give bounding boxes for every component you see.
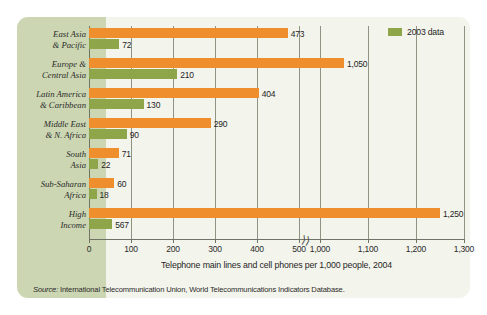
category-label-line: & N. Africa [0, 130, 86, 141]
category-label-line: Europe & [0, 59, 86, 70]
category-label-line: Sub-Saharan [0, 179, 86, 190]
category-label-line: Central Asia [0, 70, 86, 81]
x-axis-tick-label: 200 [166, 244, 180, 254]
bar-2004 [89, 208, 440, 218]
bar-value-label: 210 [180, 70, 194, 80]
bar-2004 [89, 118, 211, 128]
x-axis-tick-label: 300 [208, 244, 222, 254]
bar-value-label: 72 [122, 40, 131, 50]
bar-value-label: 404 [262, 89, 276, 99]
x-axis-title: Telephone main lines and cell phones per… [89, 260, 464, 270]
bar-2003 [89, 159, 98, 169]
bar-2003 [89, 219, 112, 229]
bar-2004 [89, 58, 344, 68]
chart-figure: 01002003004005001,0001,1001,2001,300 ⟩⟩ … [0, 0, 487, 315]
x-axis-tick [131, 239, 132, 243]
category-label: Latin America& Caribbean [0, 89, 86, 110]
x-axis-tick [173, 239, 174, 243]
bar-value-label: 567 [115, 220, 129, 230]
x-axis-tick [215, 239, 216, 243]
bar-2003 [89, 189, 97, 199]
bar-value-label: 18 [100, 190, 109, 200]
x-axis-tick [416, 239, 417, 243]
category-label-line: High [0, 209, 86, 220]
source-text: International Telecommunication Union, W… [58, 285, 345, 294]
x-axis-tick-label: 0 [87, 244, 92, 254]
category-label: HighIncome [0, 209, 86, 230]
category-label-line: Africa [0, 190, 86, 201]
category-label: Sub-SaharanAfrica [0, 179, 86, 200]
x-axis-tick [299, 239, 300, 243]
bar-2003 [89, 69, 177, 79]
x-axis-tick [464, 239, 465, 243]
x-axis-tick [257, 239, 258, 243]
x-axis-tick-label: 400 [250, 244, 264, 254]
bar-2004 [89, 28, 288, 38]
bar-value-label: 290 [214, 119, 228, 129]
x-axis-tick [320, 239, 321, 243]
category-label-line: South [0, 149, 86, 160]
bar-2004 [89, 178, 114, 188]
bar-2004 [89, 148, 119, 158]
x-axis-tick-label: 100 [124, 244, 138, 254]
bar-2004 [89, 88, 259, 98]
gridline [464, 26, 465, 239]
category-label-line: & Caribbean [0, 100, 86, 111]
bar-2003 [89, 99, 144, 109]
bar-2003 [89, 129, 127, 139]
category-label-line: Middle East [0, 119, 86, 130]
legend-swatch-2003 [388, 28, 402, 36]
source-prefix: Source: [33, 285, 58, 294]
bar-2003 [89, 39, 119, 49]
category-label-line: & Pacific [0, 40, 86, 51]
x-axis-tick [368, 239, 369, 243]
bar-value-label: 1,050 [347, 59, 367, 69]
bar-value-label: 130 [147, 100, 161, 110]
category-label: Europe &Central Asia [0, 59, 86, 80]
category-label-line: East Asia [0, 29, 86, 40]
category-label-line: Asia [0, 160, 86, 171]
x-axis-tick-label: 1,100 [358, 244, 378, 254]
x-axis-tick-label: 1,300 [454, 244, 474, 254]
source-note: Source: International Telecommunication … [33, 285, 345, 294]
bar-value-label: 60 [117, 179, 126, 189]
legend-label-2003: 2003 data [407, 27, 444, 37]
bar-value-label: 71 [122, 149, 131, 159]
legend: 2003 data [388, 27, 444, 37]
bar-value-label: 1,250 [443, 209, 463, 219]
x-axis-line [89, 239, 464, 240]
bar-value-label: 473 [291, 29, 305, 39]
x-axis-tick-label: 1,200 [406, 244, 426, 254]
bar-value-label: 90 [130, 130, 139, 140]
category-label-line: Latin America [0, 89, 86, 100]
category-label: East Asia& Pacific [0, 29, 86, 50]
category-label-line: Income [0, 220, 86, 231]
x-axis-tick-label: 1,000 [310, 244, 330, 254]
category-label: Middle East& N. Africa [0, 119, 86, 140]
x-axis-tick [89, 239, 90, 243]
category-label: SouthAsia [0, 149, 86, 170]
bar-value-label: 22 [101, 160, 110, 170]
